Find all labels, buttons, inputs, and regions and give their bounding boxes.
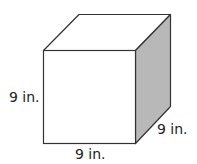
cube-front-face (44, 51, 136, 144)
width-label: 9 in. (75, 146, 106, 162)
cube-diagram: 9 in. 9 in. 9 in. (0, 0, 197, 164)
height-label: 9 in. (9, 89, 40, 105)
depth-label: 9 in. (157, 121, 188, 137)
cube-figure: 9 in. 9 in. 9 in. (0, 0, 197, 164)
